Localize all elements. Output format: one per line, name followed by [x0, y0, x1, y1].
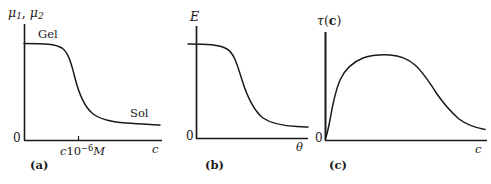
panel-a-y-axis-label: μ1, μ2	[8, 7, 44, 21]
panel-b-origin-label: 0	[186, 130, 194, 142]
panel-a: μ1, μ2 0 Gel Sol c10−6M c (a)	[0, 0, 175, 184]
panel-c-plot	[315, 0, 491, 184]
panel-c: τ(c) 0 c (c)	[315, 0, 491, 184]
panel-b-plot	[175, 0, 315, 184]
panel-b: E 0 θ (b)	[175, 0, 315, 184]
panel-c-origin-label: 0	[315, 132, 323, 144]
panel-b-curve	[188, 44, 308, 127]
panel-c-caption: (c)	[329, 160, 347, 172]
sol-region-label: Sol	[130, 108, 148, 120]
panel-b-x-axis-label: θ	[296, 142, 303, 154]
panel-c-x-axis-label: c	[475, 144, 481, 156]
panel-c-curve	[326, 55, 485, 137]
panel-a-x-axis-label: c	[152, 144, 158, 156]
panel-b-y-axis-label: E	[190, 11, 199, 24]
panel-b-caption: (b)	[205, 160, 224, 172]
gel-region-label: Gel	[38, 29, 58, 41]
figure-root: μ1, μ2 0 Gel Sol c10−6M c (a) E 0	[0, 0, 491, 184]
panel-a-origin-label: 0	[13, 132, 21, 144]
panel-a-caption: (a)	[30, 160, 48, 172]
panel-a-x-tick-label: c10−6M	[60, 144, 105, 157]
panel-c-y-axis-label: τ(c)	[317, 15, 341, 28]
